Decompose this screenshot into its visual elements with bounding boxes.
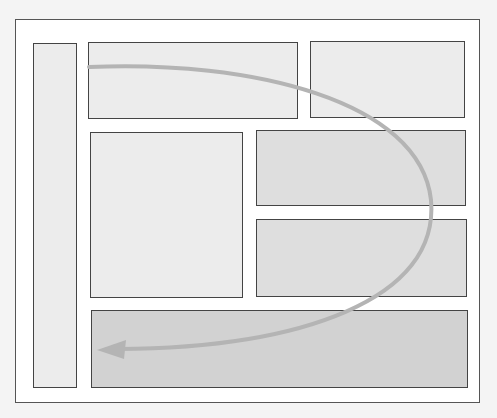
reading-path-arrow-icon <box>0 0 497 418</box>
